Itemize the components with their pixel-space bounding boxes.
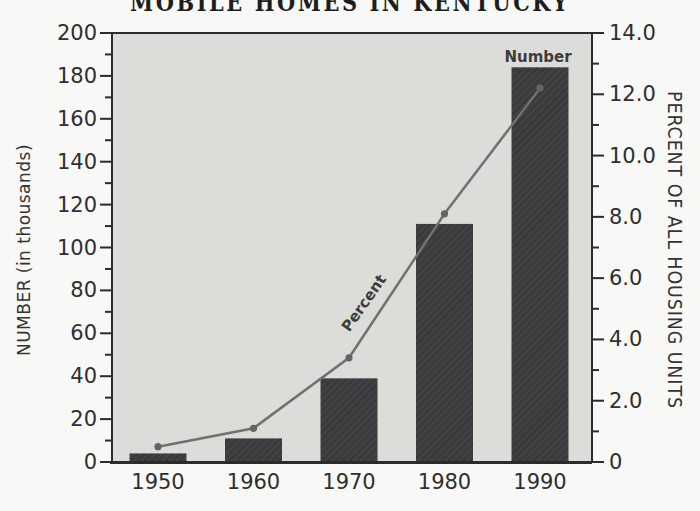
right-tick-label-8: 8.0 [609,205,642,229]
percent-point-1970 [345,354,352,361]
x-label-1970: 1970 [322,470,375,494]
left-tick-label-120: 120 [57,193,97,217]
right-axis-title: PERCENT OF ALL HOUSING UNITS [664,91,686,409]
left-tick-label-0: 0 [84,450,97,474]
x-label-1950: 1950 [131,470,184,494]
right-tick-label-0: 0 [609,450,622,474]
left-tick-label-180: 180 [57,64,97,88]
left-tick-label-60: 60 [70,321,97,345]
right-tick-label-14: 14.0 [609,21,656,45]
plot-area: 02040608010012014016018020002.04.06.08.0… [57,21,656,494]
left-tick-label-200: 200 [57,21,97,45]
right-tick-label-12: 12.0 [609,82,656,106]
bar-1950 [130,453,187,462]
chart-figure: MOBILE HOMES IN KENTUCKY 020406080100120… [0,0,700,511]
x-label-1960: 1960 [227,470,280,494]
left-tick-label-40: 40 [70,364,97,388]
percent-point-1960 [250,425,257,432]
right-tick-label-10: 10.0 [609,144,656,168]
right-tick-label-2: 2.0 [609,389,642,413]
percent-point-1980 [441,210,448,217]
percent-point-1990 [536,85,543,92]
chart-title: MOBILE HOMES IN KENTUCKY [130,0,570,17]
x-label-1990: 1990 [513,470,566,494]
chart-canvas: MOBILE HOMES IN KENTUCKY 020406080100120… [0,0,700,511]
left-tick-label-140: 140 [57,150,97,174]
left-tick-label-20: 20 [70,407,97,431]
x-label-1980: 1980 [418,470,471,494]
right-tick-label-6: 6.0 [609,266,642,290]
left-tick-label-160: 160 [57,107,97,131]
bar-1970 [321,378,378,462]
left-axis-title: NUMBER (in thousands) [13,144,34,356]
right-tick-label-4: 4.0 [609,327,642,351]
number-series-label: Number [504,48,572,66]
left-tick-label-100: 100 [57,236,97,260]
bar-1960 [225,438,282,462]
left-tick-label-80: 80 [70,278,97,302]
bar-1990 [512,67,569,462]
percent-point-1950 [154,443,161,450]
bar-1980 [416,224,473,462]
